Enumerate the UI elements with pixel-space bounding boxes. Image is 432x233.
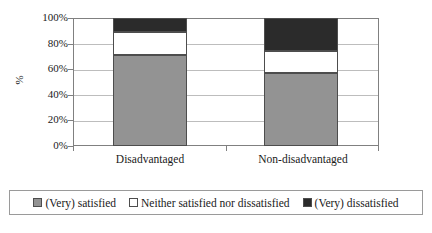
legend-swatch-dissatisfied-icon bbox=[303, 198, 312, 207]
legend-label-satisfied: (Very) satisfied bbox=[45, 196, 116, 210]
bar-disadvantaged bbox=[113, 18, 187, 146]
stacked-bar-chart: % 100% 80% 60% 40% 20% 0% Disadvantaged … bbox=[0, 0, 432, 233]
x-tick-mark-right bbox=[378, 146, 379, 151]
legend-label-neither: Neither satisfied nor dissatisfied bbox=[141, 196, 290, 210]
x-tick-mark-left bbox=[73, 146, 74, 151]
y-tick-label-80: 80% bbox=[22, 37, 68, 50]
chart-legend: (Very) satisfied Neither satisfied nor d… bbox=[9, 190, 423, 215]
y-axis-tick-labels: 100% 80% 60% 40% 20% 0% bbox=[22, 11, 72, 151]
x-category-label-disadvantaged: Disadvantaged bbox=[90, 152, 210, 167]
bar-segment-satisfied bbox=[113, 55, 187, 146]
legend-item-satisfied: (Very) satisfied bbox=[33, 196, 116, 210]
bar-segment-neither bbox=[264, 51, 338, 73]
legend-swatch-neither-icon bbox=[129, 198, 138, 207]
x-category-label-non-disadvantaged: Non-disadvantaged bbox=[238, 152, 368, 167]
bar-non-disadvantaged bbox=[264, 18, 338, 146]
y-tick-label-60: 60% bbox=[22, 62, 68, 75]
y-tick-label-100: 100% bbox=[22, 11, 68, 24]
bar-segment-satisfied bbox=[264, 73, 338, 146]
bar-segment-neither bbox=[113, 32, 187, 55]
legend-label-dissatisfied: (Very) dissatisfied bbox=[315, 196, 399, 210]
legend-item-dissatisfied: (Very) dissatisfied bbox=[303, 196, 399, 210]
legend-item-neither: Neither satisfied nor dissatisfied bbox=[129, 196, 290, 210]
y-tick-label-0: 0% bbox=[22, 139, 68, 152]
bar-segment-dissatisfied bbox=[113, 18, 187, 32]
y-tick-label-40: 40% bbox=[22, 88, 68, 101]
legend-swatch-satisfied-icon bbox=[33, 198, 42, 207]
x-tick-mark-middle bbox=[226, 146, 227, 151]
bar-segment-dissatisfied bbox=[264, 18, 338, 51]
y-tick-label-20: 20% bbox=[22, 113, 68, 126]
